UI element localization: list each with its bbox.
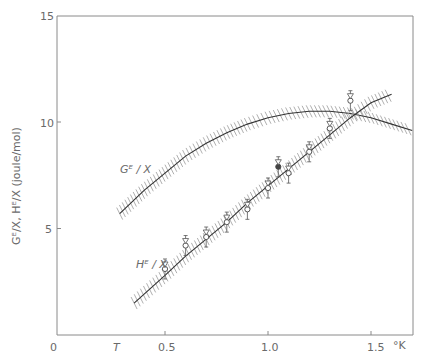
- x-tick-0-5: 0.5: [158, 341, 176, 354]
- y-tick-15: 15: [40, 10, 54, 23]
- annotation-h: Hᴱ / X: [136, 258, 167, 271]
- axes-frame: [57, 16, 413, 335]
- triangle-marker-icon: [327, 121, 333, 126]
- x-tick-1-5: 1.5: [367, 341, 385, 354]
- annotation-g: Gᴱ / X: [120, 163, 151, 176]
- x-tick-0: 0: [50, 341, 57, 354]
- chart-plot: [0, 0, 434, 362]
- triangle-marker-icon: [347, 94, 353, 99]
- triangle-marker-icon: [275, 160, 281, 165]
- x-axis-variable: T: [113, 341, 120, 354]
- x-tick-1-0: 1.0: [261, 341, 279, 354]
- y-tick-5: 5: [45, 223, 52, 236]
- x-axis-unit: °K: [393, 339, 406, 352]
- y-tick-10: 10: [40, 117, 54, 130]
- g-curve-line: [120, 111, 413, 213]
- y-axis-label: Gᴱ/X, Hᴱ/X (joule/mol): [10, 127, 23, 245]
- triangle-marker-icon: [183, 239, 189, 244]
